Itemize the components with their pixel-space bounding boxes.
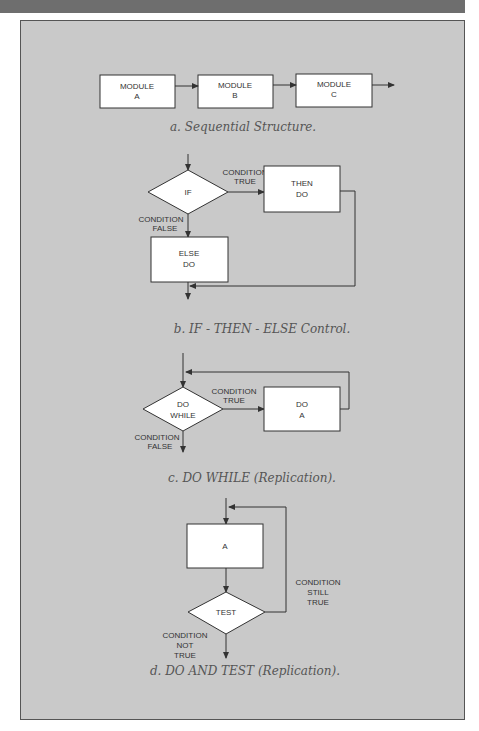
do-while-label-1: DO — [177, 400, 189, 409]
do-a-box — [264, 387, 340, 431]
exit-label-3: TRUE — [174, 651, 196, 660]
exit-label-1: CONDITION — [163, 631, 208, 640]
module-b-label-1: MODULE — [218, 81, 252, 90]
sequential-structure-diagram: MODULE A MODULE B MODULE C a. Sequential… — [100, 74, 394, 134]
module-b-label-2: B — [232, 91, 237, 100]
then-label-1: THEN — [291, 179, 313, 188]
dowhile-true-label-2: TRUE — [223, 396, 245, 405]
else-label-1: ELSE — [179, 249, 199, 258]
loop-label-3: TRUE — [307, 598, 329, 607]
loop-label-2: STILL — [307, 588, 329, 597]
exit-label-2: NOT — [177, 641, 194, 650]
do-a-label-2: A — [299, 411, 305, 420]
do-while-diagram: DO WHILE CONDITION TRUE DO A CONDITION F… — [135, 353, 349, 485]
do-while-label-2: WHILE — [170, 411, 195, 420]
do-a-label-1: DO — [296, 400, 308, 409]
do-and-test-diagram: A TEST CONDITION STILL TRUE CONDITION NO… — [150, 498, 341, 678]
caption-c: c. DO WHILE (Replication). — [168, 471, 336, 485]
else-label-2: DO — [183, 260, 195, 269]
module-c-label-1: MODULE — [317, 80, 351, 89]
a-label: A — [222, 542, 228, 551]
caption-b: b. IF - THEN - ELSE Control. — [174, 322, 351, 336]
then-label-2: DO — [296, 190, 308, 199]
dowhile-true-label-1: CONDITION — [212, 387, 257, 396]
module-a-label-1: MODULE — [120, 82, 154, 91]
flowchart-figures: MODULE A MODULE B MODULE C a. Sequential… — [0, 0, 479, 731]
if-then-else-diagram: IF CONDITION TRUE THEN DO CONDITION FALS… — [139, 154, 355, 336]
if-false-label-2: FALSE — [153, 224, 178, 233]
module-c-label-2: C — [331, 90, 337, 99]
caption-a: a. Sequential Structure. — [170, 120, 316, 134]
if-false-label-1: CONDITION — [139, 215, 184, 224]
test-label: TEST — [216, 608, 237, 617]
loop-label-1: CONDITION — [296, 578, 341, 587]
dowhile-false-label-2: FALSE — [148, 442, 173, 451]
if-true-label-1: CONDITION — [223, 168, 268, 177]
dowhile-false-label-1: CONDITION — [135, 433, 180, 442]
module-a-label-2: A — [134, 92, 140, 101]
if-true-label-2: TRUE — [234, 177, 256, 186]
if-label: IF — [184, 188, 191, 197]
then-do-box — [264, 166, 340, 212]
caption-d: d. DO AND TEST (Replication). — [150, 664, 340, 678]
